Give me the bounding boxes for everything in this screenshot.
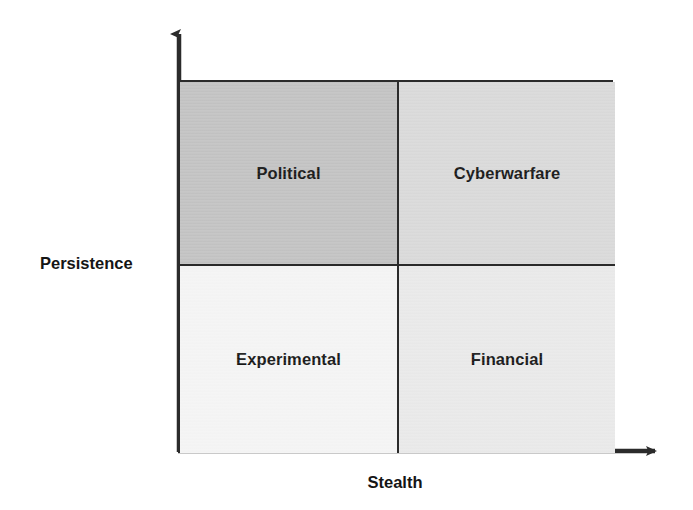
quadrant-label-cyberwarfare: Cyberwarfare xyxy=(454,164,561,182)
y-axis-title: Persistence xyxy=(40,254,133,273)
quadrant-political[interactable]: Political xyxy=(180,82,399,266)
quadrant-label-financial: Financial xyxy=(471,350,543,368)
quadrant-matrix: Political Cyberwarfare Experimental Fina… xyxy=(178,80,613,451)
quadrant-cyberwarfare[interactable]: Cyberwarfare xyxy=(399,82,615,266)
x-axis-title: Stealth xyxy=(0,473,693,492)
quadrant-experimental[interactable]: Experimental xyxy=(180,266,399,453)
quadrant-label-political: Political xyxy=(256,164,320,182)
quadrant-financial[interactable]: Financial xyxy=(399,266,615,453)
quadrant-label-experimental: Experimental xyxy=(236,350,341,368)
quadrant-diagram: Political Cyberwarfare Experimental Fina… xyxy=(0,0,693,510)
